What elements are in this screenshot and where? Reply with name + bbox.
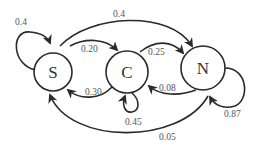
edge-label-c-s: 0.30 [85,87,102,97]
node-n-label: N [197,59,209,78]
edge-label-n-n: 0.87 [224,109,241,119]
edge-label-n-c: 0.08 [159,83,176,93]
node-c-label: C [121,63,132,82]
edge-label-s-c: 0.20 [81,44,98,54]
node-s: S [34,53,72,91]
state-diagram: S C N 0.4 0.4 0.20 0.25 0.30 0.45 0.08 0… [0,0,256,149]
edge-label-c-c: 0.45 [125,117,142,127]
edge-label-s-s: 0.4 [15,17,27,27]
node-s-label: S [48,63,57,82]
edge-label-s-n: 0.4 [113,9,125,19]
edge-c-c [124,93,138,112]
node-n: N [181,46,225,90]
edge-label-n-s: 0.05 [159,132,176,142]
edge-label-c-n: 0.25 [148,47,165,57]
node-c: C [106,51,148,93]
